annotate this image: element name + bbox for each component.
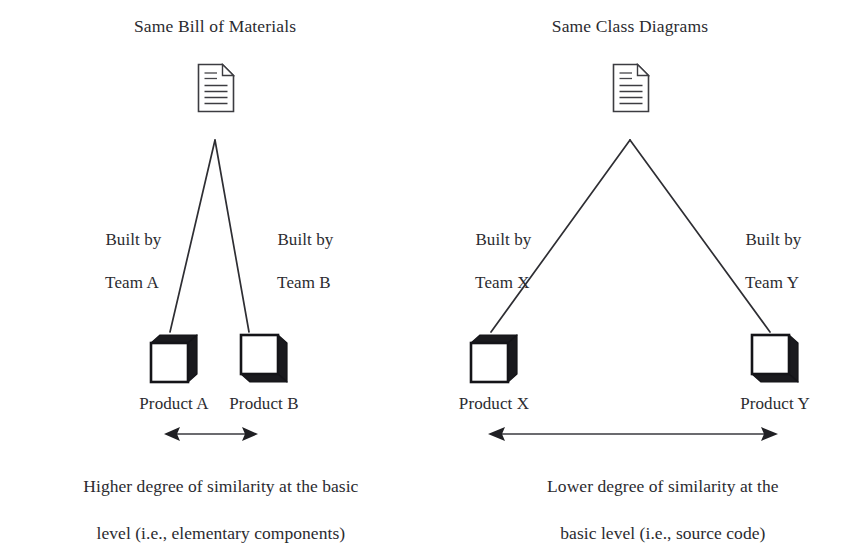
edge-label-right-y-line2: Team Y <box>745 273 799 292</box>
node-label-product-y: Product Y <box>715 394 835 415</box>
panel-title-right: Same Class Diagrams <box>480 16 780 37</box>
edge-label-left-a: Built by Team A <box>88 208 180 315</box>
caption-right-line2: basic level (i.e., source code) <box>560 523 765 543</box>
edge-label-left-a-line1: Built by <box>105 230 161 249</box>
edge-label-left-b-line2: Team B <box>277 273 331 292</box>
caption-left-line2: level (i.e., elementary components) <box>97 523 346 543</box>
caption-left-line1: Higher degree of similarity at the basic <box>83 476 358 496</box>
document-icon-left <box>197 63 235 113</box>
edge-label-left-a-line2: Team A <box>105 273 159 292</box>
edge-label-right-x-line2: Team X <box>475 273 530 292</box>
edge-label-left-b-line1: Built by <box>277 230 333 249</box>
node-label-product-x: Product X <box>434 394 554 415</box>
panel-title-left: Same Bill of Materials <box>65 16 365 37</box>
edge-label-right-x-line1: Built by <box>475 230 531 249</box>
edge-label-right-y-line1: Built by <box>745 230 801 249</box>
caption-left: Higher degree of similarity at the basic… <box>10 452 414 547</box>
node-label-product-b: Product B <box>204 394 324 415</box>
edge-label-left-b: Built by Team B <box>260 208 352 315</box>
caption-right: Lower degree of similarity at the basic … <box>452 452 856 547</box>
cube-icon-product-y <box>749 333 801 385</box>
double-arrow-icon-right <box>488 427 778 441</box>
cube-icon-product-x <box>468 333 520 385</box>
document-icon-right <box>612 63 650 113</box>
edge-label-right-x: Built by Team X <box>458 208 550 315</box>
edge-label-right-y: Built by Team Y <box>728 208 820 315</box>
caption-right-line1: Lower degree of similarity at the <box>547 476 779 496</box>
cube-icon-product-a <box>148 333 200 385</box>
cube-icon-product-b <box>238 333 290 385</box>
edge-line-left-b <box>215 140 249 332</box>
double-arrow-icon-left <box>164 427 258 441</box>
